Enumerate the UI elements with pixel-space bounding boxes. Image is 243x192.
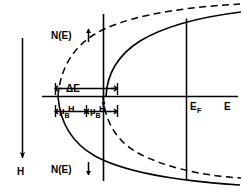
- curve-spin-up-unshifted: [58, 4, 240, 97]
- curve-spin-up-shifted: [106, 12, 241, 97]
- svg-text:E: E: [190, 101, 197, 112]
- energy-axis-label: E: [224, 101, 231, 112]
- spin-down-arrow-icon: [86, 162, 91, 176]
- delta-e-label: ΔE: [66, 83, 80, 94]
- figure-canvas: N(E) N(E) ΔE μ B H μ B H E F E H: [0, 0, 243, 192]
- dos-label-spin-down: N(E): [51, 164, 72, 175]
- dos-diagram-svg: N(E) N(E) ΔE μ B H μ B H E F E H: [0, 0, 243, 192]
- svg-text:H: H: [68, 104, 75, 114]
- fermi-level-label: E F: [190, 101, 202, 114]
- svg-text:H: H: [99, 104, 106, 114]
- spin-up-arrow-icon: [86, 29, 91, 43]
- mu-b-h-right-arrowhead: [114, 109, 117, 114]
- curve-spin-down-unshifted: [103, 97, 241, 179]
- dos-label-spin-up: N(E): [51, 30, 72, 41]
- svg-text:F: F: [197, 107, 202, 114]
- field-axis-label: H: [17, 166, 24, 177]
- delta-e-right-arrowhead: [111, 86, 117, 91]
